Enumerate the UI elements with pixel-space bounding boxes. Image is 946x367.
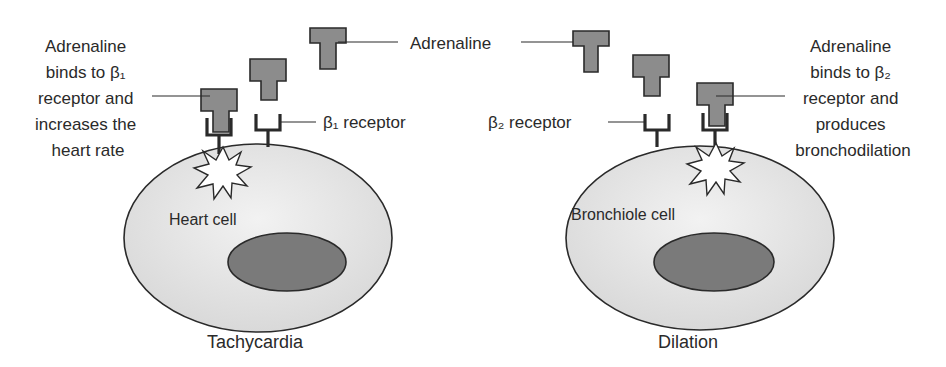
beta2-receptor-label: β₂ receptor bbox=[488, 113, 572, 132]
adrenaline-ligand-free-right bbox=[633, 55, 669, 96]
adrenaline-receptor-diagram: β₁ receptor Adrenaline binds to β₁ recep… bbox=[0, 0, 946, 367]
bronchiole-cell-nucleus bbox=[654, 233, 774, 291]
right-callout-text: Adrenaline binds to β₂ receptor and prod… bbox=[795, 37, 910, 160]
beta1-receptor-unbound bbox=[256, 114, 280, 147]
adrenaline-ligand-top-right bbox=[573, 31, 609, 72]
tachycardia-caption: Tachycardia bbox=[207, 332, 304, 352]
dilation-caption: Dilation bbox=[658, 332, 718, 352]
bronchiole-cell-label: Bronchiole cell bbox=[571, 206, 675, 223]
heart-cell-label: Heart cell bbox=[169, 211, 237, 228]
bronchiole-cell-group: β₂ receptor Adrenaline binds to β₂ recep… bbox=[488, 37, 911, 352]
adrenaline-label: Adrenaline bbox=[410, 34, 491, 53]
beta1-receptor-label: β₁ receptor bbox=[323, 113, 406, 132]
adrenaline-top-group: Adrenaline bbox=[310, 28, 609, 72]
beta2-receptor-unbound bbox=[645, 114, 669, 147]
heart-cell-group: β₁ receptor Adrenaline binds to β₁ recep… bbox=[35, 37, 406, 352]
adrenaline-ligand-free-left bbox=[250, 59, 286, 100]
left-callout-text: Adrenaline binds to β₁ receptor and incr… bbox=[35, 37, 141, 160]
adrenaline-ligand-top-left bbox=[310, 28, 346, 69]
heart-cell-nucleus bbox=[228, 233, 346, 291]
